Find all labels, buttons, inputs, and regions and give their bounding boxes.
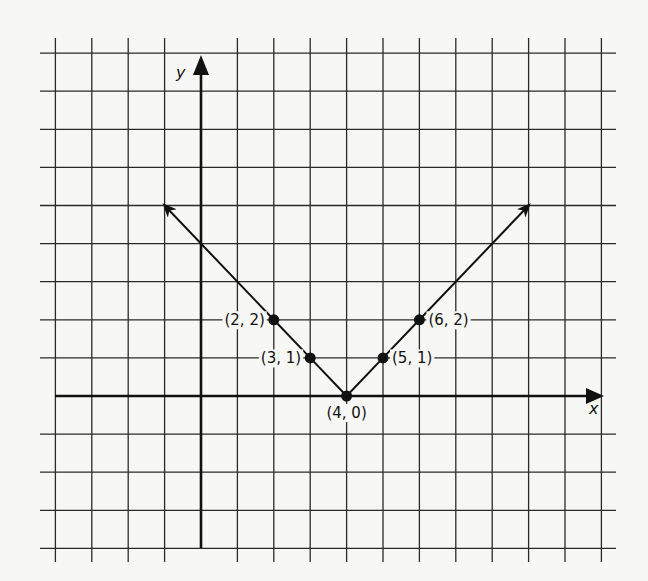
point-label: (2, 2) (224, 311, 264, 329)
point-label: (4, 0) (326, 404, 366, 422)
coordinate-graph: xy (2, 2)(3, 1)(4, 0)(5, 1)(6, 2) (0, 0, 648, 581)
y-axis-arrow-icon (193, 55, 209, 75)
data-point-marker (378, 352, 389, 363)
data-point-marker (268, 314, 279, 325)
point-label: (3, 1) (261, 349, 301, 367)
function-left-branch (165, 206, 347, 397)
data-point-marker (341, 391, 352, 402)
x-axis-label: x (588, 399, 599, 418)
point-label: (6, 2) (428, 311, 468, 329)
y-axis-label: y (175, 63, 186, 82)
data-point-marker (414, 314, 425, 325)
point-label: (5, 1) (392, 349, 432, 367)
function-right-branch (347, 206, 529, 397)
data-point-marker (305, 352, 316, 363)
grid-lines (40, 38, 616, 562)
